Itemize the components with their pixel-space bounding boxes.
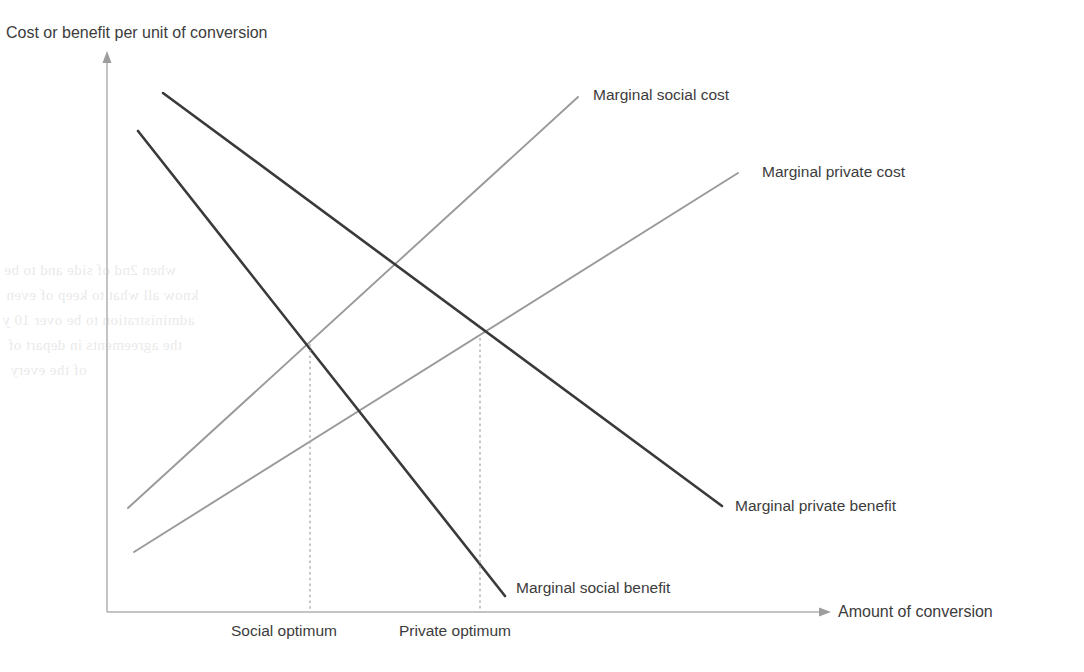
- tick-label-private-optimum: Private optimum: [399, 623, 511, 639]
- externalities-diagram: when 2nd of side and to be know all what…: [0, 0, 1084, 672]
- x-axis-arrowhead: [819, 608, 831, 617]
- x-axis: [107, 608, 831, 617]
- y-axis-arrowhead: [103, 51, 112, 63]
- label-marginal-private-benefit: Marginal private benefit: [735, 498, 896, 514]
- line-marginal-private-benefit: [163, 93, 722, 506]
- label-marginal-private-cost: Marginal private cost: [762, 164, 905, 180]
- y-axis-label: Cost or benefit per unit of conversion: [6, 25, 267, 41]
- y-axis: [103, 51, 112, 612]
- label-marginal-social-cost: Marginal social cost: [593, 87, 729, 103]
- x-axis-label: Amount of conversion: [838, 604, 993, 620]
- line-marginal-social-benefit: [138, 131, 505, 596]
- line-marginal-social-cost: [128, 97, 578, 508]
- line-marginal-private-cost: [134, 173, 738, 552]
- label-marginal-social-benefit: Marginal social benefit: [516, 580, 670, 596]
- tick-label-social-optimum: Social optimum: [231, 623, 337, 639]
- diagram-canvas: [0, 0, 1084, 672]
